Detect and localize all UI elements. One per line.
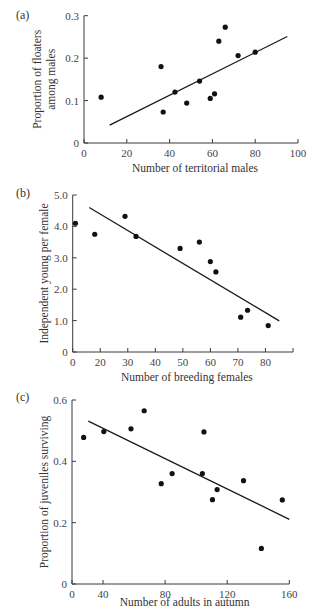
data-point	[213, 269, 218, 274]
y-tick-label: 0	[74, 137, 80, 149]
axes-lines	[84, 16, 298, 143]
x-tick-label: 60	[205, 356, 217, 368]
panel-a: 00.10.20.3020406080100Number of territor…	[16, 8, 307, 174]
x-tick-label: 20	[95, 356, 107, 368]
data-point	[266, 323, 271, 328]
data-point	[133, 234, 138, 239]
x-tick-label: 0	[70, 356, 76, 368]
data-point	[201, 429, 206, 434]
x-tick-label: 40	[150, 356, 162, 368]
data-point	[197, 78, 202, 83]
panel-label: (c)	[16, 390, 29, 404]
data-point	[208, 96, 213, 101]
data-point	[235, 53, 240, 58]
y-tick-label: 0.4	[53, 455, 67, 467]
data-point	[259, 546, 264, 551]
data-point	[99, 95, 104, 100]
data-point	[177, 246, 182, 251]
y-tick-label: 1.0	[54, 315, 68, 327]
x-tick-label: 0	[81, 147, 87, 159]
data-point	[184, 101, 189, 106]
data-point	[223, 25, 228, 30]
axes-lines	[72, 400, 289, 584]
x-tick-label: 50	[177, 356, 189, 368]
x-tick-label: 40	[164, 147, 176, 159]
panel-label: (b)	[16, 186, 30, 200]
y-tick-label: 0.2	[65, 52, 79, 64]
x-tick-label: 40	[98, 588, 110, 600]
y-axis-title: Proportion of juveniles surviving	[38, 416, 51, 569]
data-point	[212, 91, 217, 96]
x-tick-label: 100	[290, 147, 307, 159]
x-tick-label: 20	[121, 147, 133, 159]
x-axis-title: Number of breeding females	[121, 371, 253, 384]
data-point	[241, 478, 246, 483]
three-panel-scatter-chart: 00.10.20.3020406080100Number of territor…	[0, 0, 320, 611]
y-tick-label: 0	[62, 346, 68, 358]
data-point	[210, 497, 215, 502]
data-point	[215, 487, 220, 492]
y-tick-label: 2.0	[54, 283, 68, 295]
data-point	[159, 481, 164, 486]
y-tick-label: 0.2	[53, 517, 67, 529]
panel-c: 00.20.40.604080120160Number of adults in…	[16, 390, 298, 608]
data-point	[101, 429, 106, 434]
y-tick-label: 5.0	[54, 189, 68, 201]
y-axis-title: Proportion of floaters	[31, 29, 44, 129]
scatter-figure: 00.10.20.3020406080100Number of territor…	[0, 0, 320, 611]
data-point	[81, 435, 86, 440]
y-tick-label: 0.3	[65, 10, 79, 22]
x-tick-label: 160	[281, 588, 298, 600]
axes-lines	[73, 195, 293, 352]
data-point	[92, 232, 97, 237]
y-tick-label: 0.6	[53, 394, 67, 406]
x-axis-title: Number of territorial males	[132, 162, 259, 174]
data-point	[200, 471, 205, 476]
regression-line	[89, 208, 279, 321]
data-point	[238, 315, 243, 320]
x-tick-label: 70	[232, 356, 244, 368]
x-tick-label: 30	[122, 356, 134, 368]
y-tick-label: 0	[62, 578, 68, 590]
data-point	[172, 89, 177, 94]
data-point	[253, 50, 258, 55]
data-point	[170, 471, 175, 476]
y-axis-title: Independent young per female	[38, 203, 51, 343]
y-tick-label: 4.0	[54, 220, 68, 232]
data-point	[73, 221, 78, 226]
x-tick-label: 80	[250, 147, 262, 159]
data-point	[128, 426, 133, 431]
x-tick-label: 80	[260, 356, 272, 368]
data-point	[142, 408, 147, 413]
x-axis-title: Number of adults in autumn	[120, 596, 250, 608]
data-point	[122, 214, 127, 219]
panel-label: (a)	[16, 8, 29, 22]
y-tick-label: 3.0	[54, 252, 68, 264]
data-point	[158, 64, 163, 69]
x-tick-label: 0	[69, 588, 75, 600]
panel-b: 01.02.03.04.05.0020304050607080Number of…	[16, 186, 293, 384]
y-tick-label: 0.1	[65, 95, 79, 107]
data-point	[197, 240, 202, 245]
data-point	[245, 308, 250, 313]
data-point	[280, 497, 285, 502]
data-point	[161, 109, 166, 114]
data-point	[208, 259, 213, 264]
x-tick-label: 60	[207, 147, 219, 159]
y-axis-title: among males	[45, 48, 58, 110]
data-point	[216, 39, 221, 44]
regression-line	[88, 421, 289, 519]
